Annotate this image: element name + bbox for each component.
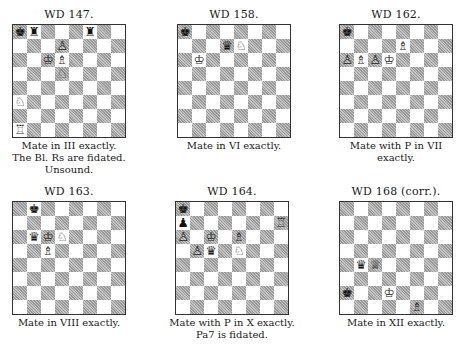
square-f6 [83,230,97,244]
square-e4 [69,81,83,95]
white-bishop-icon: ♗ [397,39,408,53]
square-b8 [354,202,368,216]
square-h7 [111,216,125,230]
square-h2 [111,109,125,123]
square-d3 [218,272,232,286]
problem-title: WD 147. [0,8,144,21]
square-c7 [204,216,218,230]
square-g4 [97,258,111,272]
square-d1 [218,300,232,314]
white-bishop-icon: ♗ [355,53,366,67]
square-h2 [111,286,125,300]
square-e4 [232,258,246,272]
square-c6: ♔ [41,230,55,244]
square-b2 [27,109,41,123]
problem-title: WD 164. [157,185,307,198]
square-h1 [111,300,125,314]
square-g1 [262,123,276,137]
white-pawn-icon: ♙ [369,53,380,67]
square-f5 [410,244,424,258]
square-b4 [27,258,41,272]
square-c7 [368,216,382,230]
square-g3 [97,95,111,109]
chess-board: ♚♛♔♘♗ [12,201,126,315]
square-c4 [206,81,220,95]
chess-board: ♚♟♖♙♔♗♙♛♘ [175,201,289,315]
square-h5 [276,67,290,81]
square-h2 [438,109,452,123]
square-e7: ♘ [234,39,248,53]
square-b2 [354,286,368,300]
square-e4 [69,258,83,272]
square-g3 [260,272,274,286]
square-a3 [340,272,354,286]
problem-wd164: WD 164. ♚♟♖♙♔♗♙♛♘ Mate with P in X exact… [157,185,307,341]
square-d5 [55,244,69,258]
white-king-icon: ♔ [205,230,216,244]
square-a5 [340,67,354,81]
square-g4 [424,258,438,272]
problem-wd163: WD 163. ♚♛♔♘♗ Mate in VIII exactly. [0,185,144,329]
caption-line: exactly. [321,152,459,164]
square-g2 [97,109,111,123]
square-a5 [176,244,190,258]
square-a5 [178,67,192,81]
black-king-icon: ♚ [28,202,39,216]
square-c6: ♔ [41,53,55,67]
square-g1 [97,300,111,314]
square-d7 [218,216,232,230]
white-king-icon: ♔ [42,53,53,67]
square-a3 [340,95,354,109]
black-queen-icon: ♛ [355,258,366,272]
square-c1 [204,300,218,314]
caption-line: Mate with P in X exactly. [157,317,307,329]
square-a4 [13,81,27,95]
square-e1 [396,123,410,137]
problem-caption: Mate in III exactly. The Bl. Rs are fida… [0,140,144,176]
problem-title: WD 162. [321,8,459,21]
square-a6: ♙ [340,53,354,67]
square-e6: ♗ [232,230,246,244]
square-e4 [396,258,410,272]
square-e6 [396,53,410,67]
square-d8 [55,25,69,39]
square-a7 [340,39,354,53]
square-b4 [354,81,368,95]
square-d7 [55,216,69,230]
square-e5 [396,244,410,258]
caption-line: The Bl. Rs are fidated. [0,152,144,164]
square-b3 [354,272,368,286]
square-f3 [83,272,97,286]
square-c6: ♙ [368,53,382,67]
square-g6 [262,53,276,67]
square-g5 [424,67,438,81]
square-f1 [83,300,97,314]
black-rook-icon: ♜ [28,25,39,39]
square-h5 [111,67,125,81]
problem-wd162: WD 162. ♚♗♙♗♙♔ Mate with P in VII exactl… [321,8,459,164]
square-g2 [260,286,274,300]
square-f4 [83,258,97,272]
chess-board: ♚♗♙♗♙♔ [339,24,453,138]
square-h7: ♖ [274,216,288,230]
square-f1 [410,123,424,137]
square-c3 [204,272,218,286]
square-f6 [83,53,97,67]
square-g8 [424,202,438,216]
square-d8 [382,202,396,216]
square-d3 [55,95,69,109]
square-f7 [248,39,262,53]
square-d2 [55,109,69,123]
square-d6 [382,230,396,244]
square-f6 [248,53,262,67]
square-g7 [424,39,438,53]
white-king-icon: ♔ [193,53,204,67]
square-f2 [246,286,260,300]
white-knight-icon: ♘ [235,39,246,53]
square-g7 [424,216,438,230]
square-c8 [368,202,382,216]
square-a4 [340,258,354,272]
square-e6 [69,53,83,67]
square-f2 [83,286,97,300]
square-d1 [220,123,234,137]
